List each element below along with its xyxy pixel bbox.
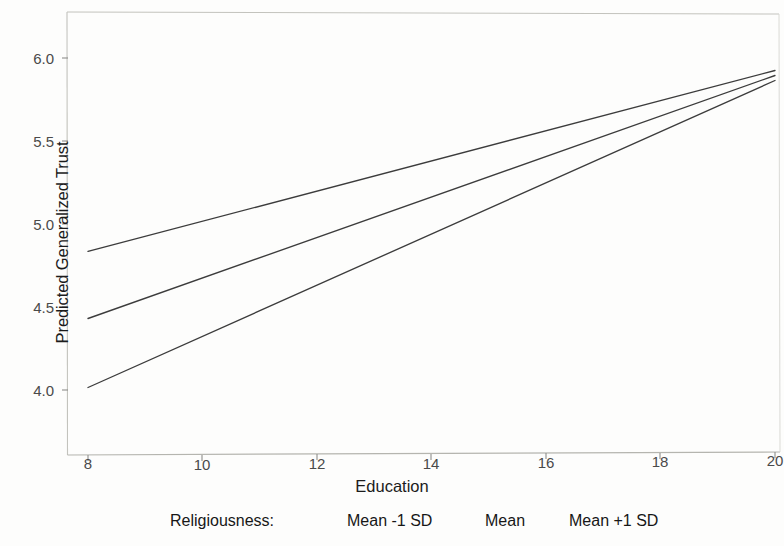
series-line-mean bbox=[88, 76, 775, 319]
series-line-mean-plus-1sd bbox=[88, 81, 775, 388]
y-tick-label: 4.5 bbox=[10, 299, 54, 316]
y-tick-label: 5.0 bbox=[10, 216, 54, 233]
x-tick-label: 16 bbox=[538, 454, 555, 471]
y-axis-title: Predicted Generalized Trust bbox=[53, 93, 72, 393]
legend-title: Religiousness: bbox=[170, 512, 274, 530]
x-tick-label: 8 bbox=[84, 455, 92, 472]
x-tick-label: 14 bbox=[423, 455, 440, 472]
x-tick-label: 12 bbox=[309, 455, 326, 472]
legend-item-mean-plus-1sd[interactable]: Mean +1 SD bbox=[569, 512, 658, 530]
legend-item-mean-minus-1sd[interactable]: Mean -1 SD bbox=[347, 512, 432, 530]
x-tick-label: 20 bbox=[767, 452, 784, 469]
y-tick-label: 5.5 bbox=[10, 133, 54, 150]
x-tick-label: 10 bbox=[194, 456, 211, 473]
x-axis-title: Education bbox=[0, 477, 784, 496]
x-axis-title-text: Education bbox=[355, 477, 428, 496]
y-tick-label: 6.0 bbox=[10, 50, 54, 67]
x-tick-label: 18 bbox=[652, 453, 669, 470]
chart-figure: 6.0 5.5 5.0 4.5 4.0 8 10 12 14 16 18 20 … bbox=[0, 0, 784, 546]
legend-item-mean[interactable]: Mean bbox=[485, 512, 525, 530]
series-line-mean-minus-1sd bbox=[88, 71, 775, 252]
plot-frame bbox=[67, 12, 780, 455]
legend: Religiousness: Mean -1 SD Mean Mean +1 S… bbox=[0, 512, 784, 542]
y-tick-label: 4.0 bbox=[10, 382, 54, 399]
